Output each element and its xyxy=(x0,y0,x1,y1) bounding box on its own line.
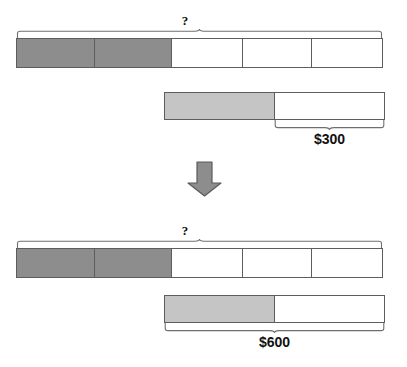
down-arrow-icon xyxy=(186,161,223,197)
bottom-unknown-label: ? xyxy=(179,224,191,237)
top-long-bar-brace xyxy=(16,29,383,38)
top-amount-brace xyxy=(274,120,385,130)
top-long-bar-segment-2 xyxy=(95,39,173,67)
top-long-bar xyxy=(16,38,383,68)
bottom-long-bar-segment-1 xyxy=(17,249,95,277)
top-short-bar-empty-segment xyxy=(275,93,384,119)
bottom-short-bar-filled-segment xyxy=(165,296,275,322)
top-long-bar-segment-4 xyxy=(243,39,313,67)
bottom-short-bar-empty-segment xyxy=(275,296,384,322)
top-long-bar-segment-3 xyxy=(172,39,243,67)
top-long-bar-segment-5 xyxy=(312,39,382,67)
bottom-long-bar-segment-5 xyxy=(312,249,382,277)
top-amount-label: $300 xyxy=(274,132,385,146)
top-unknown-label: ? xyxy=(179,14,191,27)
bottom-long-bar-segment-3 xyxy=(172,249,243,277)
top-short-bar xyxy=(164,92,385,120)
bar-model-diagram: ? $300 ? xyxy=(0,0,407,367)
bottom-short-bar xyxy=(164,295,385,323)
top-short-bar-filled-segment xyxy=(165,93,275,119)
bottom-long-bar-segment-2 xyxy=(95,249,173,277)
bottom-amount-brace xyxy=(164,323,385,333)
top-long-bar-segment-1 xyxy=(17,39,95,67)
bottom-amount-label: $600 xyxy=(164,335,385,349)
bottom-long-bar-brace xyxy=(16,239,383,248)
bottom-long-bar xyxy=(16,248,383,278)
bottom-long-bar-segment-4 xyxy=(243,249,313,277)
